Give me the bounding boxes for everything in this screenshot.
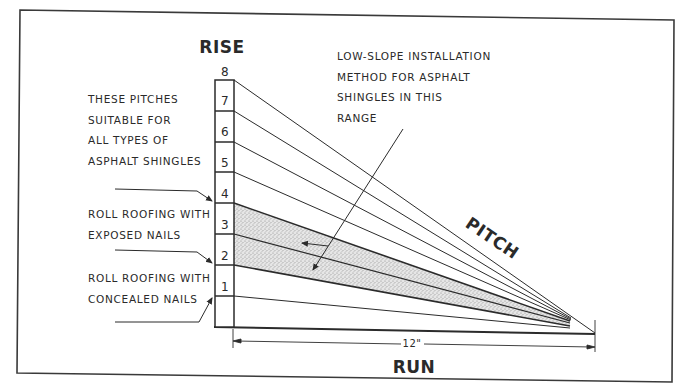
run-baseline <box>214 327 595 334</box>
roof-pitch-diagram: 8 7 6 5 4 3 2 1 RISE RUN PITCH 12" THESE… <box>0 0 686 392</box>
rise-7: 7 <box>221 94 229 108</box>
annotation-line: CONCEALED NAILS <box>88 289 211 310</box>
annotation-line: METHOD FOR ASPHALT <box>337 67 491 88</box>
annotation-all-types: THESE PITCHES SUITABLE FOR ALL TYPES OF … <box>88 89 201 171</box>
annotation-line: SUITABLE FOR <box>88 110 201 131</box>
rise-2: 2 <box>221 249 229 263</box>
annotation-line: SHINGLES IN THIS <box>337 87 491 108</box>
annotation-exposed-nails: ROLL ROOFING WITH EXPOSED NAILS <box>88 204 211 245</box>
rise-5: 5 <box>221 156 229 170</box>
rise-8: 8 <box>221 65 229 79</box>
annotation-line: RANGE <box>337 108 491 129</box>
rise-1: 1 <box>221 280 229 294</box>
annotation-line: ALL TYPES OF <box>88 130 201 151</box>
annotation-line: ASPHALT SHINGLES <box>88 151 201 172</box>
annotation-concealed-nails: ROLL ROOFING WITH CONCEALED NAILS <box>88 268 211 309</box>
annotation-low-slope: LOW-SLOPE INSTALLATION METHOD FOR ASPHAL… <box>337 46 491 128</box>
run-dimension-label: 12" <box>402 338 421 349</box>
rise-6: 6 <box>221 125 229 139</box>
run-axis-title: RUN <box>393 357 436 377</box>
rise-4: 4 <box>221 187 229 201</box>
annotation-line: LOW-SLOPE INSTALLATION <box>337 46 491 67</box>
rise-3: 3 <box>221 218 229 232</box>
arrow-to-rise-2 <box>115 250 212 263</box>
annotation-line: THESE PITCHES <box>88 89 201 110</box>
annotation-line: ROLL ROOFING WITH <box>88 268 211 289</box>
rise-axis-title: RISE <box>199 37 244 57</box>
annotation-line: ROLL ROOFING WITH <box>88 204 211 225</box>
pitch-label: PITCH <box>462 213 523 263</box>
arrow-to-rise-4 <box>115 189 212 201</box>
annotation-line: EXPOSED NAILS <box>88 225 211 246</box>
